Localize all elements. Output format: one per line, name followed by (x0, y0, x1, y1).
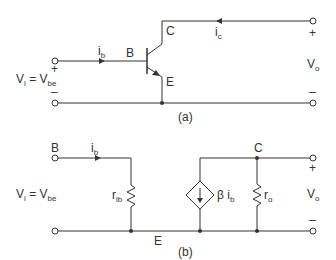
figure-a-bjt-circuit: ib B C E ic + – Vi = Vbe + – Vo (a) (16, 18, 320, 124)
output-terminal-bottom (310, 100, 316, 106)
output-terminal-top (310, 18, 316, 24)
label-collector: C (254, 141, 263, 155)
label-emitter: E (166, 75, 174, 89)
label-collector: C (166, 24, 175, 38)
label-ro: ro (264, 188, 273, 204)
figure-b-small-signal-model: B ib rib β ib ro C E Vi = Vbe + – Vo (b) (16, 141, 320, 259)
label-output-voltage: Vo (307, 187, 320, 203)
ic-arrow-icon (216, 18, 222, 24)
output-plus-sign: + (309, 26, 316, 40)
label-base: B (51, 141, 59, 155)
label-ib: ib (91, 141, 99, 157)
label-ic: ic (215, 25, 222, 41)
input-plus-sign: + (51, 62, 58, 76)
input-terminal-bottom (52, 100, 58, 106)
caption-b: (b) (178, 245, 193, 259)
output-minus-sign: – (309, 85, 316, 99)
node-dot (129, 229, 133, 233)
circuit-diagram: ib B C E ic + – Vi = Vbe + – Vo (a) (0, 0, 336, 260)
output-terminal-bottom (310, 228, 316, 234)
input-terminal-bottom (52, 228, 58, 234)
label-ib: ib (98, 44, 106, 60)
label-emitter: E (154, 234, 162, 248)
label-beta-ib: β ib (217, 188, 235, 204)
output-minus-sign: – (309, 213, 316, 227)
label-base: B (126, 46, 134, 60)
output-plus-sign: + (309, 161, 316, 175)
input-terminal-top (52, 155, 58, 161)
label-output-voltage: Vo (307, 57, 320, 73)
down-arrow-icon (197, 198, 203, 203)
label-rib: rib (112, 188, 123, 204)
caption-a: (a) (178, 110, 193, 124)
ro-resistor-icon (253, 184, 261, 206)
rib-resistor-icon (127, 185, 135, 207)
collector-lead (147, 44, 162, 55)
label-input-voltage: Vi = Vbe (16, 187, 57, 203)
